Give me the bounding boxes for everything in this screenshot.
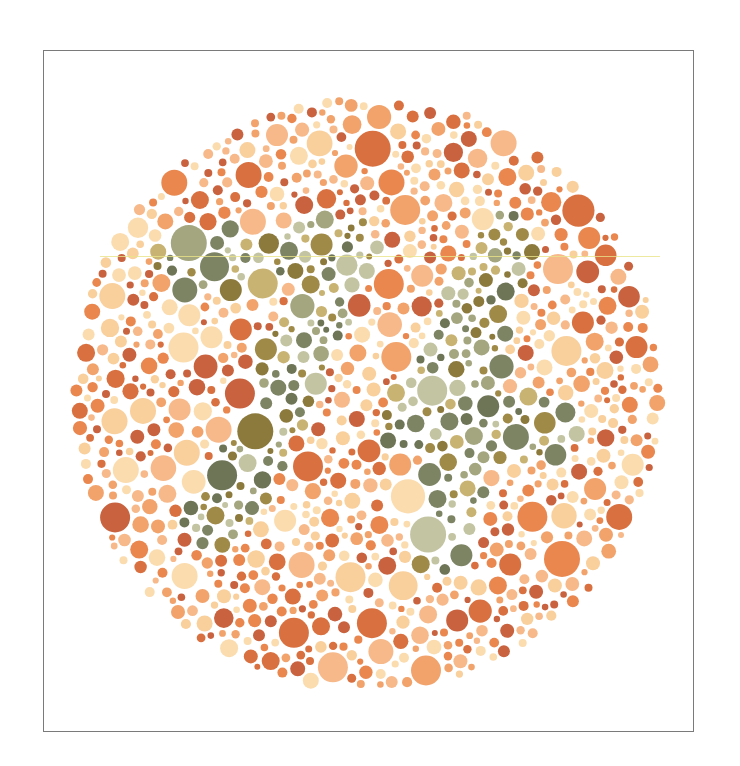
plate-dot: [309, 600, 318, 609]
plate-dot: [437, 160, 445, 168]
plate-dot: [644, 432, 651, 439]
plate-dot: [277, 607, 287, 617]
plate-dot: [359, 218, 367, 226]
plate-dot: [426, 160, 433, 167]
plate-dot: [360, 399, 372, 411]
plate-dot: [354, 636, 362, 644]
plate-dot: [164, 444, 173, 453]
plate-dot: [431, 122, 445, 136]
plate-dot: [358, 439, 381, 462]
plate-dot: [524, 335, 531, 342]
plate-dot: [319, 364, 325, 370]
plate-dot: [398, 302, 410, 314]
plate-dot: [530, 443, 537, 450]
plate-dot: [411, 188, 418, 195]
plate-dot: [187, 605, 198, 616]
plate-dot: [494, 200, 500, 206]
plate-dot: [431, 556, 439, 564]
plate-dot: [411, 323, 421, 333]
plate-dot: [356, 234, 364, 242]
plate-dot: [218, 207, 230, 219]
plate-dot: [411, 656, 441, 686]
plate-dot: [602, 235, 608, 241]
plate-dot: [145, 587, 155, 597]
plate-dot: [521, 415, 530, 424]
plate-dot: [248, 614, 261, 627]
plate-dot: [395, 420, 405, 430]
plate-dot: [468, 664, 475, 671]
plate-dot: [211, 398, 220, 407]
plate-dot: [586, 368, 594, 376]
plate-dot: [560, 295, 570, 305]
plate-dot: [517, 502, 547, 532]
plate-dot: [158, 342, 164, 348]
plate-dot: [645, 378, 653, 386]
plate-dot: [478, 451, 490, 463]
plate-dot: [463, 523, 475, 535]
plate-dot: [556, 186, 562, 192]
plate-dot: [597, 449, 611, 463]
plate-dot: [237, 572, 246, 581]
plate-dot: [146, 258, 153, 265]
plate-dot: [240, 239, 252, 251]
plate-dot: [558, 385, 573, 400]
plate-dot: [303, 170, 311, 178]
plate-dot: [424, 574, 430, 580]
plate-dot: [316, 401, 324, 409]
plate-dot: [483, 512, 497, 526]
plate-dot: [263, 456, 273, 466]
plate-dot: [413, 646, 419, 652]
plate-dot: [499, 501, 508, 510]
plate-dot: [167, 266, 177, 276]
plate-dot: [230, 192, 240, 202]
plate-dot: [253, 521, 269, 537]
plate-dot: [444, 664, 453, 673]
plate-dot: [537, 165, 545, 173]
plate-dot: [550, 601, 558, 609]
plate-dot: [450, 544, 472, 566]
plate-dot: [70, 384, 82, 396]
plate-dot: [460, 207, 471, 218]
plate-dot: [357, 680, 365, 688]
plate-dot: [382, 197, 390, 205]
plate-dot: [422, 134, 432, 144]
plate-dot: [312, 617, 330, 635]
plate-dot: [77, 344, 95, 362]
plate-dot: [127, 281, 134, 288]
plate-dot: [498, 606, 508, 616]
plate-dot: [218, 353, 228, 363]
plate-dot: [452, 300, 460, 308]
plate-dot: [419, 605, 437, 623]
plate-dot: [579, 416, 586, 423]
plate-dot: [360, 176, 374, 190]
plate-dot: [211, 601, 218, 608]
plate-dot: [381, 219, 390, 228]
plate-dot: [584, 478, 606, 500]
plate-dot: [535, 319, 546, 330]
plate-dot: [496, 597, 503, 604]
plate-dot: [194, 402, 212, 420]
plate-dot: [332, 491, 338, 497]
plate-dot: [305, 373, 327, 395]
plate-dot: [516, 311, 530, 325]
plate-dot: [172, 563, 198, 589]
plate-dot: [233, 554, 245, 566]
plate-dot: [156, 397, 166, 407]
plate-dot: [348, 605, 356, 613]
plate-dot: [357, 431, 366, 440]
plate-dot: [128, 218, 148, 238]
plate-dot: [322, 267, 336, 281]
plate-dot: [211, 318, 218, 325]
plate-dot: [163, 416, 170, 423]
plate-dot: [280, 178, 288, 186]
plate-dot: [331, 588, 339, 596]
plate-dot: [509, 197, 521, 209]
plate-dot: [248, 570, 258, 580]
plate-dot: [400, 440, 408, 448]
plate-dot: [489, 576, 507, 594]
plate-dot: [403, 333, 409, 339]
plate-dot: [162, 299, 178, 315]
plate-dot: [247, 299, 259, 311]
plate-dot: [145, 270, 153, 278]
plate-dot: [111, 233, 129, 251]
